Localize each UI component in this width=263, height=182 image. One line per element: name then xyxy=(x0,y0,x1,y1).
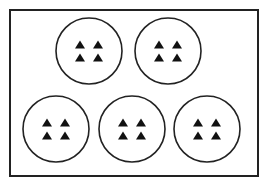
group-circle xyxy=(174,96,240,162)
triangle-icon xyxy=(93,41,103,49)
group-circle xyxy=(23,96,89,162)
triangle-icon xyxy=(60,132,70,140)
triangle-icon xyxy=(118,132,128,140)
triangle-icon xyxy=(172,41,182,49)
triangle-icon xyxy=(118,119,128,127)
group-1 xyxy=(56,18,122,84)
triangle-icon xyxy=(42,119,52,127)
equal-groups-diagram xyxy=(0,0,263,182)
group-circle xyxy=(99,96,165,162)
frame-rectangle xyxy=(10,10,258,176)
group-circle xyxy=(56,18,122,84)
triangle-icon xyxy=(75,54,85,62)
triangle-icon xyxy=(154,41,164,49)
group-5 xyxy=(174,96,240,162)
triangle-icon xyxy=(93,54,103,62)
groups-container xyxy=(23,18,240,162)
group-2 xyxy=(135,18,201,84)
triangle-icon xyxy=(60,119,70,127)
triangle-icon xyxy=(211,119,221,127)
triangle-icon xyxy=(136,132,146,140)
triangle-icon xyxy=(193,132,203,140)
triangle-icon xyxy=(211,132,221,140)
triangle-icon xyxy=(154,54,164,62)
triangle-icon xyxy=(42,132,52,140)
group-3 xyxy=(23,96,89,162)
triangle-icon xyxy=(75,41,85,49)
triangle-icon xyxy=(172,54,182,62)
triangle-icon xyxy=(136,119,146,127)
triangle-icon xyxy=(193,119,203,127)
group-circle xyxy=(135,18,201,84)
group-4 xyxy=(99,96,165,162)
